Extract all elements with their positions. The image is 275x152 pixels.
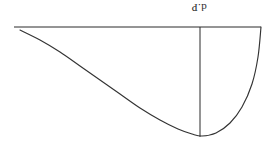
figure-strokes	[14, 27, 261, 137]
figure-drawing	[0, 0, 275, 152]
label-dp: d.P	[185, 2, 213, 14]
plotted-curve	[20, 27, 261, 136]
figure-canvas: d.P	[0, 0, 275, 152]
